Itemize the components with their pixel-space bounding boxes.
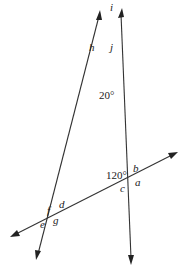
angle-label-a: a <box>135 176 141 188</box>
angle-label-f: f <box>47 204 52 216</box>
angle-label-e: e <box>40 218 45 230</box>
angle-label-g: g <box>53 214 59 226</box>
left-line-top-arrowhead <box>96 10 102 20</box>
angle-label-d: d <box>59 198 65 210</box>
transversal-left-arrowhead <box>10 230 20 237</box>
angle-label-j: j <box>108 41 113 53</box>
angle-label-h: h <box>89 41 95 53</box>
right-line-bottom-arrowhead <box>128 255 134 265</box>
angle-label-c: c <box>120 182 125 194</box>
angle-label-b: b <box>133 162 139 174</box>
transversal-right-arrowhead <box>168 152 178 159</box>
geometry-diagram: i h j 20° 120° b a c f d e g <box>0 0 189 279</box>
angle-label-i: i <box>110 1 113 13</box>
angle-label-20-degrees: 20° <box>99 89 114 101</box>
angle-label-120-degrees: 120° <box>106 169 127 181</box>
right-line-top-arrowhead <box>118 8 124 18</box>
left-line-bottom-arrowhead <box>35 250 41 260</box>
right-line <box>121 14 131 258</box>
